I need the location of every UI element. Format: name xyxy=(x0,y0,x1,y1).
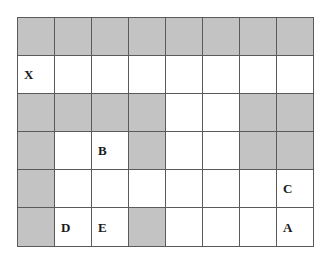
grid-cell-blocked[interactable] xyxy=(277,132,314,170)
grid-cell-a[interactable]: A xyxy=(277,208,314,246)
grid-cell-blocked[interactable] xyxy=(277,18,314,56)
grid-row: X xyxy=(18,56,314,94)
grid-cell-open[interactable] xyxy=(55,170,92,208)
grid-cell-x[interactable]: X xyxy=(18,56,55,94)
grid-cell-blocked[interactable] xyxy=(92,18,129,56)
grid-cell-open[interactable] xyxy=(240,56,277,94)
cell-label: D xyxy=(55,221,91,234)
grid-cell-blocked[interactable] xyxy=(129,132,166,170)
grid-cell-blocked[interactable] xyxy=(129,18,166,56)
cell-label: A xyxy=(277,221,313,234)
grid-cell-blocked[interactable] xyxy=(129,94,166,132)
grid-cell-open[interactable] xyxy=(240,170,277,208)
maze-grid: XBCDEA xyxy=(17,17,314,247)
grid-cell-blocked[interactable] xyxy=(203,18,240,56)
grid-cell-open[interactable] xyxy=(166,94,203,132)
grid-cell-blocked[interactable] xyxy=(18,170,55,208)
grid-row xyxy=(18,18,314,56)
grid-cell-open[interactable] xyxy=(92,170,129,208)
grid-cell-blocked[interactable] xyxy=(92,94,129,132)
grid-body: XBCDEA xyxy=(18,18,314,247)
grid-cell-open[interactable] xyxy=(203,132,240,170)
grid-cell-blocked[interactable] xyxy=(240,132,277,170)
grid-cell-open[interactable] xyxy=(203,94,240,132)
grid-cell-open[interactable] xyxy=(203,208,240,246)
grid-cell-blocked[interactable] xyxy=(129,208,166,246)
grid-cell-d[interactable]: D xyxy=(55,208,92,246)
grid-cell-c[interactable]: C xyxy=(277,170,314,208)
grid-cell-blocked[interactable] xyxy=(18,208,55,246)
grid-cell-open[interactable] xyxy=(55,56,92,94)
grid-cell-open[interactable] xyxy=(240,208,277,246)
grid-cell-blocked[interactable] xyxy=(55,94,92,132)
grid-cell-blocked[interactable] xyxy=(166,18,203,56)
grid-cell-blocked[interactable] xyxy=(18,94,55,132)
grid-cell-open[interactable] xyxy=(166,170,203,208)
grid-cell-blocked[interactable] xyxy=(277,94,314,132)
cell-label: E xyxy=(92,221,128,234)
grid-cell-blocked[interactable] xyxy=(18,132,55,170)
grid-cell-open[interactable] xyxy=(129,170,166,208)
grid-cell-open[interactable] xyxy=(203,170,240,208)
grid-row: B xyxy=(18,132,314,170)
grid-cell-open[interactable] xyxy=(166,132,203,170)
grid-row: C xyxy=(18,170,314,208)
grid-cell-open[interactable] xyxy=(166,56,203,94)
grid-cell-open[interactable] xyxy=(166,208,203,246)
grid-cell-e[interactable]: E xyxy=(92,208,129,246)
grid-cell-open[interactable] xyxy=(55,132,92,170)
grid-cell-open[interactable] xyxy=(277,56,314,94)
grid-cell-blocked[interactable] xyxy=(55,18,92,56)
grid-container: XBCDEA xyxy=(17,17,305,240)
grid-cell-open[interactable] xyxy=(203,56,240,94)
cell-label: X xyxy=(18,68,54,81)
cell-label: B xyxy=(92,144,128,157)
grid-row xyxy=(18,94,314,132)
grid-cell-blocked[interactable] xyxy=(240,94,277,132)
grid-cell-blocked[interactable] xyxy=(240,18,277,56)
grid-cell-open[interactable] xyxy=(129,56,166,94)
grid-row: DEA xyxy=(18,208,314,246)
grid-cell-open[interactable] xyxy=(92,56,129,94)
cell-label: C xyxy=(277,182,313,195)
grid-cell-blocked[interactable] xyxy=(18,18,55,56)
grid-cell-b[interactable]: B xyxy=(92,132,129,170)
